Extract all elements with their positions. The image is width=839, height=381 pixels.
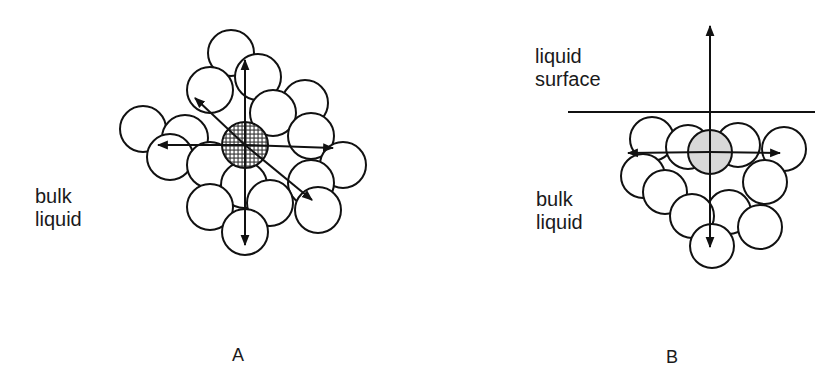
panel-b-surface-label: liquid surface [535,45,601,91]
neighbor-molecule [147,134,193,180]
neighbor-molecule [743,160,787,204]
liquid-forces-diagram [0,0,839,381]
panel-b-label: B [666,347,678,368]
panel-b-surface-label-line2: surface [535,68,601,91]
force-arrow-left-icon [628,152,710,153]
panel-b-region-label: bulk liquid [536,188,583,234]
panel-a-region-label: bulk liquid [35,185,82,231]
neighbor-molecule [738,205,782,249]
panel-b-surface-label-line1: liquid [535,45,601,68]
panel-a-label: A [232,345,244,366]
neighbor-molecule [690,224,734,268]
panel-b-region-label-line2: liquid [536,211,583,234]
neighbor-molecule [187,67,233,113]
force-arrow-right-icon [710,152,780,153]
neighbor-molecule [295,187,341,233]
panel-a-region-label-line2: liquid [35,208,82,231]
panel-b-region-label-line1: bulk [536,188,583,211]
panel-a-region-label-line1: bulk [35,185,82,208]
